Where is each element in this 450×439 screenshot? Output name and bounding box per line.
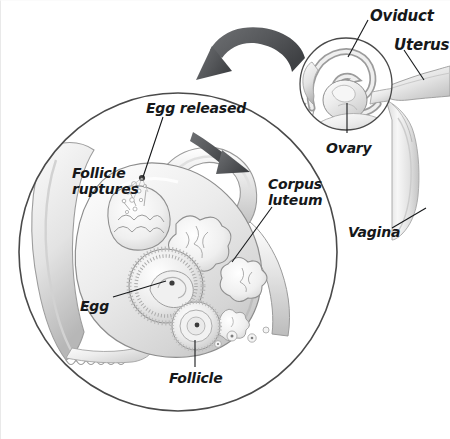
label-follicle: Follicle	[169, 371, 222, 387]
label-follicle-ruptures: Follicle ruptures	[72, 166, 139, 197]
zoom-arrow	[196, 27, 305, 80]
developing-follicle	[172, 302, 220, 350]
illustration-canvas: Oviduct Uterus Ovary Vagina Egg released…	[0, 0, 450, 439]
label-vagina: Vagina	[348, 225, 400, 241]
vaginal-canal	[386, 100, 419, 240]
label-egg: Egg	[80, 299, 109, 315]
label-uterus: Uterus	[394, 37, 449, 54]
label-egg-released: Egg released	[146, 101, 246, 117]
corpus-luteum-small	[220, 257, 267, 301]
magnified-view-group	[18, 92, 338, 412]
label-ovary: Ovary	[326, 141, 372, 157]
anatomy-artwork	[0, 0, 450, 439]
inset-clipped-contents	[298, 36, 398, 134]
ovum-nucleus	[169, 280, 174, 285]
label-oviduct: Oviduct	[370, 8, 434, 25]
leader-uterus	[404, 50, 424, 80]
label-corpus-luteum: Corpus luteum	[268, 177, 322, 208]
